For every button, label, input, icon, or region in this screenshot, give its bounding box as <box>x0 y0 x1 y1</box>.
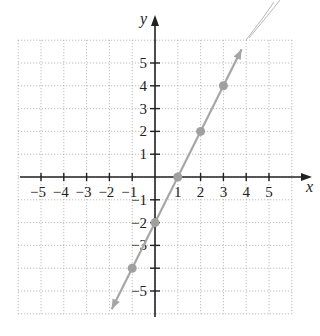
x-tick-label: 1 <box>174 184 182 200</box>
y-axis-label: y <box>138 10 148 28</box>
x-tick-label: −2 <box>98 184 114 200</box>
y-tick-label: 5 <box>140 55 148 71</box>
line-arrow-up-icon <box>234 49 242 60</box>
x-axis-label: x <box>305 178 313 195</box>
y-axis-arrow-icon <box>151 15 159 26</box>
y-tick-label: −5 <box>131 283 147 299</box>
x-tick-label: 4 <box>242 184 250 200</box>
pencil-scribble <box>246 0 280 40</box>
data-point <box>173 173 182 182</box>
data-point <box>219 81 228 90</box>
x-tick-label: 5 <box>265 184 273 200</box>
y-tick-label: 3 <box>140 101 148 117</box>
x-tick-label: 2 <box>197 184 205 200</box>
y-tick-label: 1 <box>140 146 148 162</box>
y-tick-label: −1 <box>131 192 147 208</box>
x-tick-label: −4 <box>53 184 69 200</box>
data-point <box>151 218 160 227</box>
y-tick-label: 2 <box>140 123 148 139</box>
x-tick-label: −3 <box>76 184 92 200</box>
coordinate-plane: x y −5−4−3−2−112345−5−3−2−112345 <box>0 0 320 336</box>
y-tick-label: −2 <box>131 215 147 231</box>
x-tick-label: −5 <box>30 184 46 200</box>
data-point <box>196 127 205 136</box>
data-point <box>128 264 137 273</box>
x-tick-label: 3 <box>220 184 228 200</box>
line-arrow-down-icon <box>112 299 120 310</box>
y-tick-label: 4 <box>140 78 148 94</box>
